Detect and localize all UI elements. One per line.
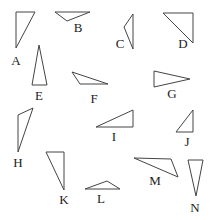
triangle-shape	[85, 181, 120, 189]
triangle-shape	[154, 71, 190, 87]
triangle-label: N	[190, 200, 200, 215]
triangle-label: D	[178, 36, 187, 51]
triangle-label: A	[11, 53, 21, 68]
triangle-c: C	[116, 14, 133, 51]
triangle-f: F	[72, 72, 108, 106]
triangle-e: E	[32, 45, 47, 103]
triangle-b: B	[55, 12, 90, 35]
triangle-g: G	[154, 71, 190, 101]
triangle-shape	[46, 152, 64, 190]
triangle-label: L	[97, 191, 105, 206]
triangle-label: M	[149, 173, 161, 188]
triangle-label: E	[35, 88, 43, 103]
triangles-canvas: ABCDEFGHIJKLMN	[0, 0, 214, 220]
triangle-shape	[55, 12, 90, 21]
triangle-j: J	[176, 110, 193, 149]
triangle-i: I	[96, 110, 133, 144]
triangle-k: K	[46, 152, 69, 207]
triangle-label: C	[116, 36, 125, 51]
triangles-diagram: ABCDEFGHIJKLMN	[0, 0, 214, 220]
triangle-shape	[176, 110, 193, 132]
triangle-label: B	[74, 20, 83, 35]
triangle-h: H	[13, 108, 33, 170]
triangle-label: K	[59, 192, 69, 207]
triangle-n: N	[188, 160, 203, 215]
triangle-d: D	[163, 13, 193, 51]
triangle-m: M	[134, 158, 178, 188]
triangle-shape	[124, 14, 133, 49]
triangle-label: H	[13, 155, 22, 170]
triangle-label: J	[184, 134, 189, 149]
triangle-label: F	[90, 91, 97, 106]
triangle-label: G	[167, 86, 176, 101]
triangle-a: A	[11, 12, 35, 68]
triangle-l: L	[85, 181, 120, 206]
triangle-shape	[32, 45, 47, 85]
triangle-shape	[72, 72, 108, 84]
triangle-shape	[16, 12, 35, 48]
triangle-shape	[96, 110, 133, 127]
triangle-shape	[188, 160, 203, 196]
triangle-shape	[18, 108, 33, 152]
triangle-label: I	[112, 129, 116, 144]
